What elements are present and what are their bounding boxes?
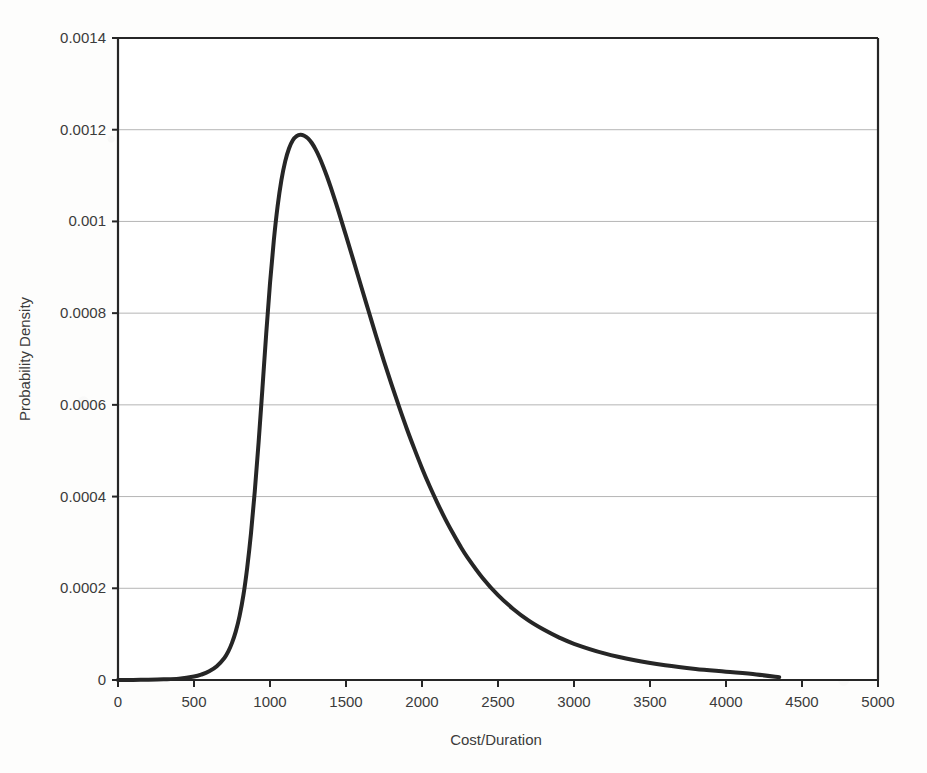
y-tick-label: 0.0012	[60, 121, 106, 138]
y-tick-label: 0.0002	[60, 579, 106, 596]
x-axis-tick-labels: 0500100015002000250030003500400045005000	[114, 693, 895, 710]
probability-density-chart: 00.00020.00040.00060.00080.0010.00120.00…	[0, 0, 927, 773]
plot-area	[118, 38, 878, 680]
chart-page: 00.00020.00040.00060.00080.0010.00120.00…	[0, 0, 927, 773]
x-tick-label: 1000	[253, 693, 286, 710]
y-tick-label: 0	[98, 671, 106, 688]
x-axis-title: Cost/Duration	[450, 731, 542, 748]
y-axis-tick-labels: 00.00020.00040.00060.00080.0010.00120.00…	[60, 29, 106, 688]
y-tick-label: 0.0014	[60, 29, 106, 46]
x-tick-label: 500	[181, 693, 206, 710]
y-tick-label: 0.001	[68, 212, 106, 229]
x-tick-label: 0	[114, 693, 122, 710]
y-tick-label: 0.0004	[60, 488, 106, 505]
x-tick-label: 2500	[481, 693, 514, 710]
x-tick-label: 4500	[785, 693, 818, 710]
x-tick-label: 2000	[405, 693, 438, 710]
y-axis-title: Probability Density	[16, 296, 33, 421]
x-tick-label: 1500	[329, 693, 362, 710]
x-tick-label: 4000	[709, 693, 742, 710]
x-tick-label: 5000	[861, 693, 894, 710]
plot-background	[118, 38, 878, 680]
x-tick-label: 3000	[557, 693, 590, 710]
x-tick-label: 3500	[633, 693, 666, 710]
y-tick-label: 0.0008	[60, 304, 106, 321]
y-tick-label: 0.0006	[60, 396, 106, 413]
